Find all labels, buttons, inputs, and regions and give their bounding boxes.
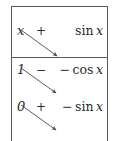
row-2-dv-argument: x — [96, 99, 103, 114]
row-1-dv-function: cos — [72, 62, 93, 77]
row-0-sign: + — [36, 20, 46, 42]
table-middle-rule — [11, 57, 108, 58]
row-2-dv-value: − sin x — [62, 96, 103, 118]
row-1-u-value: 1 — [17, 59, 25, 81]
row-0-dv-function: sin — [75, 23, 93, 38]
row-0-u-value: x — [17, 20, 24, 42]
row-0-dv-argument: x — [96, 23, 103, 38]
row-1-dv-prefix: − — [60, 62, 70, 77]
tabular-integration-figure: x + sin x 1 − − cos x 0 + − sin x — [0, 0, 119, 141]
table-row: 1 − − cos x — [11, 59, 108, 81]
row-2-dv-function: sin — [75, 99, 93, 114]
row-1-dv-value: − cos x — [60, 59, 104, 81]
table-row: 0 + − sin x — [11, 96, 108, 118]
row-1-sign: − — [36, 59, 46, 81]
row-2-dv-prefix: − — [62, 99, 72, 114]
row-2-u-value: 0 — [17, 96, 25, 118]
row-2-sign: + — [36, 96, 46, 118]
table-top-rule — [11, 6, 108, 7]
row-1-dv-argument: x — [96, 62, 103, 77]
table-row: x + sin x — [11, 20, 108, 42]
row-0-dv-value: sin x — [75, 20, 103, 42]
